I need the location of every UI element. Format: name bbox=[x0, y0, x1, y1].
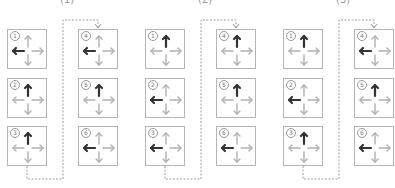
sequence-connector bbox=[0, 0, 386, 188]
